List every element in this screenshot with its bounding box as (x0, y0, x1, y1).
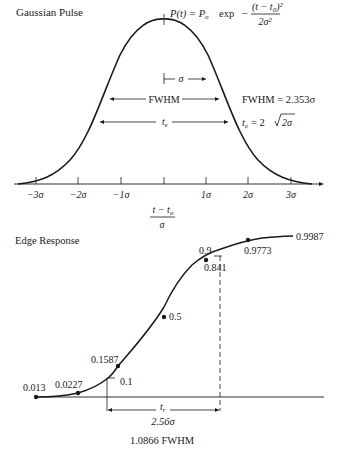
svg-text:σ: σ (160, 219, 166, 230)
fwhm-arrow: FWHM (110, 94, 219, 105)
svg-text:2σ: 2σ (243, 189, 254, 200)
svg-text:−2σ: −2σ (70, 189, 88, 200)
svg-text:2σ: 2σ (282, 117, 293, 128)
label-09987: 0.9987 (296, 231, 324, 242)
svg-text:P(t) = Po: P(t) = Po (169, 8, 209, 21)
label-09773: 0.9773 (244, 245, 272, 256)
svg-text:tr: tr (160, 401, 166, 414)
figure-canvas: Gaussian Pulse P(t) = Po exp − (t − t0)²… (0, 0, 337, 452)
svg-text:−1σ: −1σ (113, 189, 131, 200)
svg-text:t − to: t − to (153, 204, 174, 217)
svg-text:σ: σ (179, 73, 185, 84)
svg-text:1σ: 1σ (201, 189, 212, 200)
gaussian-title: Gaussian Pulse (16, 6, 83, 18)
svg-text:te= 2: te= 2 (242, 117, 265, 130)
label-0013: 0.013 (23, 382, 46, 393)
label-0841: 0.841 (204, 262, 227, 273)
sigma-marker: σ (164, 73, 206, 84)
tr-fwhm: 1.0866 FWHM (130, 435, 195, 446)
tr-value: 2.56σ (151, 416, 175, 427)
label-09: 0.9 (199, 245, 212, 256)
label-01587: 0.1587 (91, 354, 119, 365)
svg-text:exp: exp (219, 8, 234, 19)
svg-text:−3σ: −3σ (27, 189, 45, 200)
te-arrow: te (100, 116, 228, 129)
fwhm-equation: FWHM = 2.353σ (242, 94, 315, 105)
gaussian-x-label: t − to σ (150, 204, 175, 230)
te-equation: te= 2 2σ (242, 114, 295, 130)
edge-title: Edge Response (15, 235, 80, 246)
gaussian-equation: P(t) = Po exp − (t − t0)² 2σ² (169, 1, 283, 27)
svg-text:3σ: 3σ (285, 189, 297, 200)
label-01: 0.1 (120, 376, 133, 387)
gaussian-x-axis: −3σ −2σ −1σ 1σ 2σ 3σ (14, 177, 324, 200)
label-05: 0.5 (169, 311, 182, 322)
svg-text:te: te (162, 116, 168, 129)
svg-text:FWHM: FWHM (148, 94, 179, 105)
svg-text:(t − t0)²: (t − t0)² (252, 1, 283, 14)
svg-text:2σ²: 2σ² (259, 16, 273, 27)
tr-arrow: tr (108, 401, 219, 414)
svg-text:−: − (242, 8, 248, 19)
label-00227: 0.0227 (55, 379, 83, 390)
